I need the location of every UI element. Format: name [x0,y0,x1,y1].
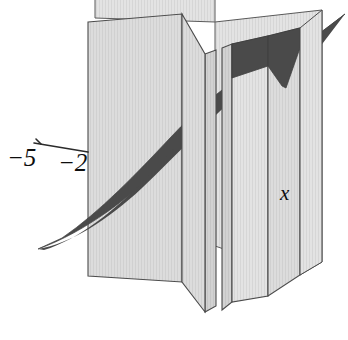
axis-label-x: x [280,183,289,204]
plane-center-front [182,14,205,312]
plane-middle-edge-a [205,50,216,312]
surface-diagram-svg [0,0,348,340]
plane-right-flap [300,10,322,275]
figure-canvas: −5 −2 x [0,0,348,340]
tick-label-minus-five: −5 [7,145,36,170]
tick-label-minus-two: −2 [58,150,87,175]
plane-middle-edge-b [222,44,232,310]
